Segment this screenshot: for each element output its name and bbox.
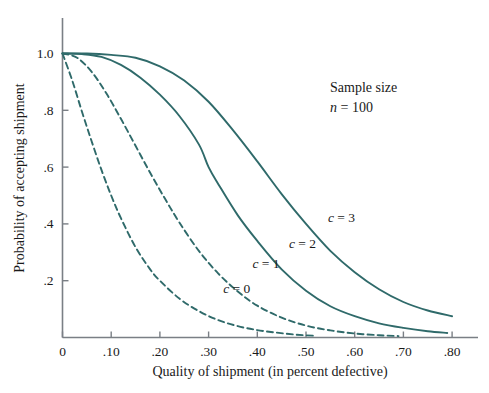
curve-c-2 (63, 54, 448, 333)
curve-label-value: = 0 (229, 281, 250, 296)
curve-label-c-3: c = 3 (328, 210, 355, 225)
y-axis-tick-labels: .2.4.6.81.0 (37, 46, 54, 288)
op-curve-chart: 0.10.20.30.40.50.60.70.80 .2.4.6.81.0 c … (0, 0, 489, 393)
y-tick-label: .4 (43, 216, 53, 231)
oc-curves (63, 53, 453, 336)
n-symbol: n (330, 100, 337, 115)
curve-label-value: = 1 (258, 256, 279, 271)
y-tick-label: .2 (43, 273, 53, 288)
x-axis-tick-labels: 0.10.20.30.40.50.60.70.80 (59, 344, 461, 359)
y-axis-title: Probability of accepting shipment (12, 83, 27, 272)
sample-size-label: Sample size (330, 80, 397, 95)
x-tick-label: .50 (298, 344, 315, 359)
curve-c-0 (63, 54, 316, 336)
curve-label-c-1: c = 1 (252, 256, 279, 271)
x-tick-label: .80 (444, 344, 461, 359)
x-tick-label: .70 (395, 344, 412, 359)
y-tick-label: .8 (43, 103, 53, 118)
y-tick-label: .6 (43, 160, 53, 175)
y-tick-label: 1.0 (37, 46, 54, 61)
x-tick-label: .20 (151, 344, 168, 359)
x-tick-label: .10 (103, 344, 120, 359)
curve-label-value: = 2 (295, 236, 316, 251)
x-tick-label: .60 (346, 344, 363, 359)
sample-size-value: n = 100 (330, 100, 373, 115)
n-value: = 100 (337, 100, 373, 115)
x-tick-label: 0 (59, 344, 66, 359)
x-tick-label: .30 (200, 344, 217, 359)
curve-label-c-0: c = 0 (223, 281, 250, 296)
x-tick-label: .40 (249, 344, 266, 359)
curve-label-c-2: c = 2 (289, 236, 316, 251)
curve-label-value: = 3 (334, 210, 355, 225)
chart-container: 0.10.20.30.40.50.60.70.80 .2.4.6.81.0 c … (0, 0, 489, 393)
y-axis-ticks (63, 54, 69, 281)
x-axis-title: Quality of shipment (in percent defectiv… (152, 364, 388, 380)
